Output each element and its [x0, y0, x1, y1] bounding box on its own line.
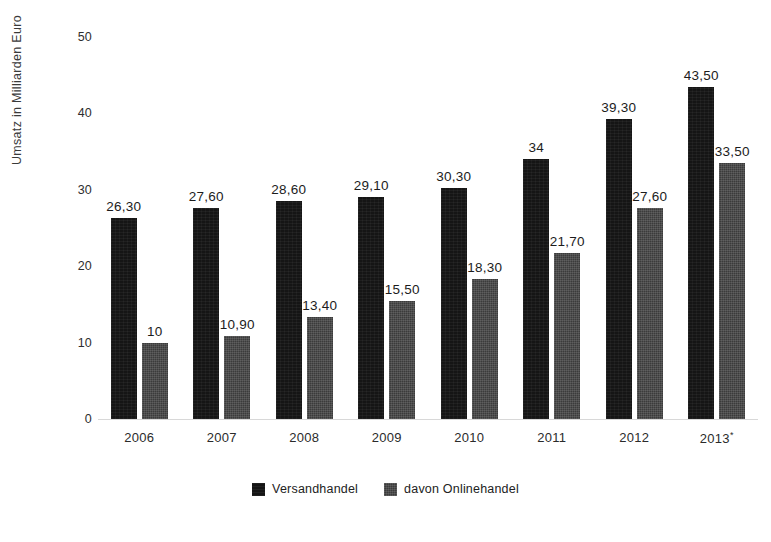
y-axis-tick-10: 10: [58, 336, 92, 350]
bar-value-label: 34: [529, 140, 544, 155]
plot-area: 26,301027,6010,9028,6013,4029,1015,5030,…: [98, 37, 758, 419]
bar-davon-onlinehandel-2011[interactable]: [554, 253, 580, 419]
bar-value-label: 21,70: [550, 234, 585, 249]
bar-value-label: 29,10: [354, 178, 389, 193]
bar-group: 29,1015,50: [358, 37, 415, 419]
bar-versandhandel-2012[interactable]: [606, 119, 632, 419]
bar-group: 27,6010,90: [193, 37, 250, 419]
bar-group: 43,5033,50: [688, 37, 745, 419]
bar-value-label: 43,50: [684, 68, 719, 83]
bar-value-label: 13,40: [302, 298, 337, 313]
bar-value-label: 10: [147, 324, 162, 339]
bar-value-label: 27,60: [189, 189, 224, 204]
y-axis-tick-50: 50: [58, 30, 92, 44]
legend-label: davon Onlinehandel: [404, 482, 519, 496]
y-axis-tick-30: 30: [58, 183, 92, 197]
bar-value-label: 33,50: [715, 144, 750, 159]
legend-item-versandhandel[interactable]: Versandhandel: [252, 482, 358, 496]
legend-item-davon-onlinehandel[interactable]: davon Onlinehandel: [384, 482, 519, 496]
bar-value-label: 15,50: [385, 282, 420, 297]
bar-group: 28,6013,40: [276, 37, 333, 419]
legend-swatch-versandhandel: [252, 483, 265, 496]
bar-value-label: 18,30: [467, 260, 502, 275]
x-axis-tick-2009: 2009: [372, 430, 402, 445]
y-axis-tick-labels: 01020304050: [58, 0, 92, 542]
forecast-asterisk: *: [730, 430, 734, 440]
x-axis-tick-2007: 2007: [207, 430, 237, 445]
bar-value-label: 39,30: [601, 100, 636, 115]
bar-versandhandel-2006[interactable]: [111, 218, 137, 419]
bar-value-label: 10,90: [220, 317, 255, 332]
bar-versandhandel-2011[interactable]: [523, 159, 549, 419]
x-axis-tick-labels: 20062007200820092010201120122013*: [98, 430, 758, 456]
legend-swatch-onlinehandel: [384, 483, 397, 496]
y-axis-tick-40: 40: [58, 106, 92, 120]
bar-davon-onlinehandel-2010[interactable]: [472, 279, 498, 419]
bar-group: 30,3018,30: [441, 37, 498, 419]
bar-value-label: 28,60: [271, 182, 306, 197]
bar-versandhandel-2013[interactable]: [688, 87, 714, 419]
bar-versandhandel-2008[interactable]: [276, 201, 302, 420]
bar-group: 3421,70: [523, 37, 580, 419]
x-axis-baseline: [98, 419, 758, 420]
bar-davon-onlinehandel-2006[interactable]: [142, 343, 168, 419]
x-axis-tick-2010: 2010: [454, 430, 484, 445]
bar-davon-onlinehandel-2009[interactable]: [389, 301, 415, 419]
bar-davon-onlinehandel-2013[interactable]: [719, 163, 745, 419]
bar-davon-onlinehandel-2012[interactable]: [637, 208, 663, 419]
bar-chart: Umsatz in Milliarden Euro 01020304050 26…: [0, 0, 771, 542]
legend-label: Versandhandel: [272, 482, 358, 496]
x-axis-tick-2013: 2013*: [700, 430, 734, 446]
bar-group: 39,3027,60: [606, 37, 663, 419]
x-axis-tick-2006: 2006: [124, 430, 154, 445]
y-axis-tick-20: 20: [58, 259, 92, 273]
x-axis-tick-2008: 2008: [289, 430, 319, 445]
bar-value-label: 30,30: [436, 169, 471, 184]
x-axis-tick-2012: 2012: [619, 430, 649, 445]
chart-legend: Versandhandeldavon Onlinehandel: [0, 482, 771, 496]
bar-versandhandel-2009[interactable]: [358, 197, 384, 419]
bar-versandhandel-2010[interactable]: [441, 188, 467, 419]
y-axis-title: Umsatz in Milliarden Euro: [10, 0, 24, 200]
bar-value-label: 27,60: [632, 189, 667, 204]
bar-davon-onlinehandel-2008[interactable]: [307, 317, 333, 419]
bar-group: 26,3010: [111, 37, 168, 419]
y-axis-tick-0: 0: [58, 412, 92, 426]
bar-davon-onlinehandel-2007[interactable]: [224, 336, 250, 419]
x-axis-tick-2011: 2011: [537, 430, 566, 445]
bar-value-label: 26,30: [106, 199, 141, 214]
bar-versandhandel-2007[interactable]: [193, 208, 219, 419]
